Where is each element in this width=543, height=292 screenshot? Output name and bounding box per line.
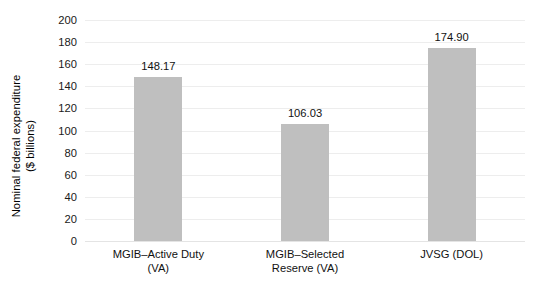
x-tick-label-line: Reserve (VA) xyxy=(230,261,380,275)
y-tick-label: 40 xyxy=(43,191,77,202)
x-tick-label: JVSG (DOL) xyxy=(377,247,527,261)
x-tick-label: MGIB–Active Duty(VA) xyxy=(83,247,233,275)
bar-value-label: 148.17 xyxy=(113,60,203,72)
x-tick-label-line: JVSG (DOL) xyxy=(377,247,527,261)
x-axis-tick-labels: MGIB–Active Duty(VA)MGIB–SelectedReserve… xyxy=(85,247,525,292)
y-tick-label: 180 xyxy=(43,37,77,48)
bar-value-label: 106.03 xyxy=(260,107,350,119)
bar[interactable] xyxy=(134,77,182,241)
x-tick-label: MGIB–SelectedReserve (VA) xyxy=(230,247,380,275)
y-tick-label: 100 xyxy=(43,125,77,136)
x-tick-label-line: (VA) xyxy=(83,261,233,275)
bar[interactable] xyxy=(281,124,329,241)
bar-value-label: 174.90 xyxy=(407,31,497,43)
bar[interactable] xyxy=(428,48,476,241)
gridline-200 xyxy=(85,20,525,21)
plot-area: 148.17106.03174.90 xyxy=(85,20,525,241)
y-tick-label: 140 xyxy=(43,81,77,92)
y-axis-tick-labels: 020406080100120140160180200 xyxy=(0,0,85,292)
y-tick-label: 0 xyxy=(43,236,77,247)
y-tick-label: 20 xyxy=(43,213,77,224)
gridline-0 xyxy=(85,241,525,242)
x-tick-label-line: MGIB–Selected xyxy=(230,247,380,261)
y-tick-label: 60 xyxy=(43,169,77,180)
y-tick-label: 160 xyxy=(43,59,77,70)
y-tick-label: 80 xyxy=(43,147,77,158)
y-tick-label: 120 xyxy=(43,103,77,114)
x-tick-label-line: MGIB–Active Duty xyxy=(83,247,233,261)
y-tick-label: 200 xyxy=(43,15,77,26)
bar-chart-figure: Nominal federal expenditure ($ billions)… xyxy=(0,0,543,292)
